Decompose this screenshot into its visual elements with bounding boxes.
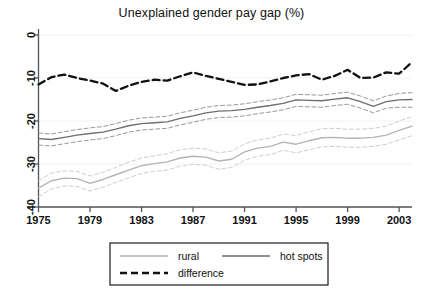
x-tick-label: 1995 [284,214,308,226]
series-line-hot-spots-upper-ci [39,92,413,134]
chart-plot-area: 19751979198319871991199519992003 0-10-20… [0,0,423,292]
x-tick-label: 1991 [232,214,256,226]
legend-label-difference: difference [178,267,224,279]
y-tick-label: 0 [25,32,37,38]
y-axis-ticks: 0-10-20-30-40 [25,32,39,215]
y-tick-label: -20 [25,113,37,129]
series-line-rural [39,126,413,188]
gridlines [39,35,413,207]
series-line-rural-lower-ci [39,136,413,197]
chart-legend: ruralhot spotsdifference [110,243,328,285]
x-axis-ticks: 19751979198319871991199519992003 [26,207,411,226]
data-series-group [39,62,413,197]
series-line-difference [39,62,413,91]
legend-label-hot-spots: hot spots [280,250,323,262]
x-tick-label: 1979 [78,214,102,226]
x-tick-label: 1983 [129,214,153,226]
axes [39,29,413,207]
series-line-hot-spots [39,98,413,140]
y-tick-label: -10 [25,70,37,86]
x-tick-label: 1999 [335,214,359,226]
x-tick-label: 2003 [387,214,411,226]
legend-label-rural: rural [178,250,199,262]
x-tick-label: 1987 [181,214,205,226]
chart-figure: Unexplained gender pay gap (%) 197519791… [0,0,423,292]
y-tick-label: -40 [25,199,37,215]
y-tick-label: -30 [25,156,37,172]
series-line-rural-upper-ci [39,117,413,181]
